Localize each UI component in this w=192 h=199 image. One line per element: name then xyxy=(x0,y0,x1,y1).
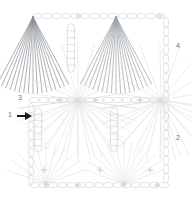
round-label-3: 3 xyxy=(18,94,22,101)
round-label-4: 4 xyxy=(176,42,180,49)
crochet-chart-diagram: 4 3 1 2 xyxy=(0,0,192,199)
chain-stitch-group xyxy=(28,14,168,188)
chart-canvas xyxy=(0,0,192,199)
round-label-1: 1 xyxy=(8,111,12,118)
round-label-2: 2 xyxy=(176,134,180,141)
plus-stitch-group xyxy=(41,13,163,188)
